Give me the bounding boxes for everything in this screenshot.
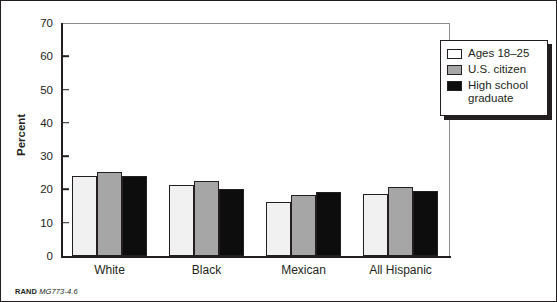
legend-label-us-citizen: U.S. citizen: [468, 63, 526, 76]
legend-swatch-ages-18-25: [447, 49, 462, 59]
bar: [122, 176, 147, 256]
y-tick-label: 20: [27, 183, 53, 195]
x-tick-label: White: [94, 263, 125, 277]
y-tick-label: 10: [27, 217, 53, 229]
bar: [388, 187, 413, 256]
bar-group: [266, 23, 341, 256]
legend-label-high-school-graduate: High school graduate: [468, 79, 528, 105]
bar: [266, 202, 291, 256]
legend-swatch-us-citizen: [447, 65, 462, 75]
bar: [219, 189, 244, 256]
legend-box: Ages 18–25 U.S. citizen High school grad…: [440, 40, 548, 116]
bar: [194, 181, 219, 256]
legend-swatch-high-school-graduate: [447, 81, 462, 91]
legend-item: High school graduate: [447, 79, 547, 105]
bar: [72, 176, 97, 256]
bar: [97, 172, 122, 256]
bar-group: [169, 23, 244, 256]
caption-brand: RAND: [15, 287, 37, 296]
legend-label-ages-18-25: Ages 18–25: [468, 47, 529, 60]
legend-item: Ages 18–25: [447, 47, 547, 60]
y-tick-label: 40: [27, 117, 53, 129]
figure-bar-chart: Percent 010203040506070 WhiteBlackMexica…: [0, 0, 557, 302]
y-tick-label: 50: [27, 84, 53, 96]
y-tick-label: 30: [27, 150, 53, 162]
figure-caption: RAND MG773-4.6: [15, 287, 78, 296]
caption-code: MG773-4.6: [39, 287, 77, 296]
bar: [316, 192, 341, 256]
bar: [363, 194, 388, 256]
x-tick-label: Mexican: [281, 263, 326, 277]
bar-group: [363, 23, 438, 256]
legend-item: U.S. citizen: [447, 63, 547, 76]
y-tick-label: 70: [27, 17, 53, 29]
x-tick-label: All Hispanic: [369, 263, 432, 277]
y-tick-label: 0: [27, 250, 53, 262]
y-tick-label: 60: [27, 50, 53, 62]
bar: [413, 191, 438, 256]
bar: [291, 195, 316, 256]
bar-group: [72, 23, 147, 256]
bar: [169, 185, 194, 256]
x-tick-label: Black: [192, 263, 221, 277]
y-axis-label: Percent: [15, 114, 27, 156]
